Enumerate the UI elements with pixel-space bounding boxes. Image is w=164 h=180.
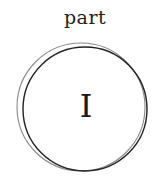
part-numeral: I: [70, 88, 102, 124]
